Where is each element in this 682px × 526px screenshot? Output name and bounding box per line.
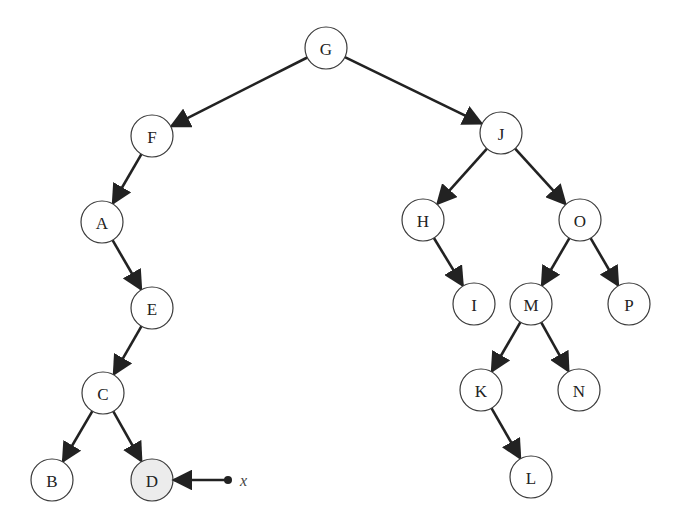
tree-node-c: C bbox=[82, 372, 124, 414]
tree-node-h: H bbox=[402, 199, 444, 241]
edge-o-p bbox=[591, 238, 618, 285]
edge-h-i bbox=[434, 238, 463, 285]
tree-node-p: P bbox=[608, 283, 650, 325]
edge-c-d bbox=[113, 411, 141, 461]
node-label: L bbox=[526, 469, 536, 488]
tree-node-b: B bbox=[31, 459, 73, 501]
tree-node-a: A bbox=[81, 201, 123, 243]
node-label: H bbox=[417, 212, 429, 231]
tree-node-g: G bbox=[305, 27, 347, 69]
edge-k-l bbox=[491, 408, 520, 458]
edge-m-k bbox=[492, 322, 520, 371]
node-label: J bbox=[498, 125, 505, 144]
tree-node-i: I bbox=[453, 283, 495, 325]
tree-node-e: E bbox=[131, 287, 173, 329]
edge-g-f bbox=[172, 57, 308, 126]
tree-node-k: K bbox=[460, 369, 502, 411]
tree-node-d: D bbox=[131, 459, 173, 501]
edge-o-m bbox=[542, 238, 569, 285]
edge-j-h bbox=[438, 149, 487, 204]
pointer-label: x bbox=[239, 472, 247, 489]
edge-g-j bbox=[345, 57, 481, 123]
node-label: K bbox=[475, 382, 488, 401]
tree-node-n: N bbox=[558, 369, 600, 411]
tree-diagram: GFJAHOEIMPCKNBDL x bbox=[0, 0, 682, 526]
tree-node-o: O bbox=[559, 199, 601, 241]
tree-node-m: M bbox=[510, 283, 552, 325]
node-label: B bbox=[46, 472, 57, 491]
tree-node-j: J bbox=[480, 112, 522, 154]
node-label: A bbox=[96, 214, 109, 233]
node-label: O bbox=[574, 212, 586, 231]
node-label: F bbox=[147, 128, 156, 147]
edge-c-b bbox=[63, 411, 92, 461]
node-label: G bbox=[320, 40, 332, 59]
node-label: C bbox=[97, 385, 108, 404]
tree-node-f: F bbox=[131, 115, 173, 157]
node-label: D bbox=[146, 472, 158, 491]
edge-e-c bbox=[114, 326, 142, 374]
pointer-x: x bbox=[174, 472, 247, 489]
node-label: M bbox=[523, 296, 538, 315]
node-label: I bbox=[471, 296, 477, 315]
edge-f-a bbox=[113, 154, 141, 203]
edge-a-e bbox=[113, 240, 141, 289]
node-label: E bbox=[147, 300, 157, 319]
edge-m-n bbox=[541, 322, 568, 370]
pointer-dot-icon bbox=[224, 476, 232, 484]
tree-node-l: L bbox=[510, 456, 552, 498]
node-label: P bbox=[624, 296, 633, 315]
node-label: N bbox=[573, 382, 585, 401]
edge-j-o bbox=[515, 149, 565, 204]
